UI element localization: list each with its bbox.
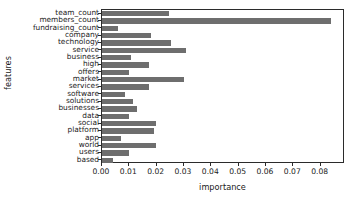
bar-row <box>102 114 345 119</box>
bar-row <box>102 92 345 97</box>
bar-software <box>102 92 125 97</box>
bar-data <box>102 114 129 119</box>
bar-app <box>102 136 121 141</box>
x-tick-mark <box>101 163 102 166</box>
bar-business <box>102 55 131 60</box>
bar-row <box>102 26 345 31</box>
y-tick-label-based: based <box>3 156 99 163</box>
bar-technology <box>102 40 171 45</box>
x-tick-mark <box>156 163 157 166</box>
bar-businesses <box>102 106 137 111</box>
bar-row <box>102 84 345 89</box>
x-tick-mark <box>210 163 211 166</box>
bar-services <box>102 84 149 89</box>
y-axis-title: features <box>3 43 13 103</box>
x-tick-mark <box>292 163 293 166</box>
bar-team_count <box>102 11 169 16</box>
x-tick-label-0.03: 0.03 <box>175 167 192 176</box>
x-tick-label-0.00: 0.00 <box>93 167 110 176</box>
x-tick-label-0.01: 0.01 <box>120 167 137 176</box>
bar-row <box>102 70 345 75</box>
x-tick-mark <box>183 163 184 166</box>
bar-high <box>102 62 149 67</box>
x-tick-label-0.08: 0.08 <box>311 167 328 176</box>
bar-row <box>102 55 345 60</box>
x-tick-mark <box>320 163 321 166</box>
x-tick-label-0.04: 0.04 <box>202 167 219 176</box>
bar-users <box>102 150 129 155</box>
bar-platform <box>102 128 154 133</box>
bar-row <box>102 18 345 23</box>
plot-area <box>101 9 344 163</box>
bar-world <box>102 143 156 148</box>
x-tick-label-0.07: 0.07 <box>284 167 301 176</box>
bar-service <box>102 48 186 53</box>
x-tick-mark <box>265 163 266 166</box>
bar-company <box>102 33 151 38</box>
bar-members_count <box>102 18 331 23</box>
bar-row <box>102 128 345 133</box>
x-tick-label-0.02: 0.02 <box>147 167 164 176</box>
importance-bar-chart: team_countmembers_countfundraising_count… <box>0 0 358 206</box>
bar-solutions <box>102 99 133 104</box>
bar-fundraising_count <box>102 26 118 31</box>
bar-row <box>102 99 345 104</box>
x-tick-mark <box>128 163 129 166</box>
bar-row <box>102 77 345 82</box>
bar-offers <box>102 70 129 75</box>
x-tick-label-0.05: 0.05 <box>229 167 246 176</box>
bar-row <box>102 121 345 126</box>
x-axis-title: importance <box>101 182 344 192</box>
bar-social <box>102 121 156 126</box>
bar-row <box>102 136 345 141</box>
bar-row <box>102 48 345 53</box>
bar-market <box>102 77 184 82</box>
x-tick-mark <box>238 163 239 166</box>
bar-row <box>102 143 345 148</box>
bar-row <box>102 106 345 111</box>
bar-row <box>102 11 345 16</box>
y-axis-tick-labels: team_countmembers_countfundraising_count… <box>0 9 99 163</box>
x-tick-label-0.06: 0.06 <box>257 167 274 176</box>
bar-row <box>102 33 345 38</box>
bar-row <box>102 40 345 45</box>
bar-row <box>102 150 345 155</box>
bar-row <box>102 62 345 67</box>
